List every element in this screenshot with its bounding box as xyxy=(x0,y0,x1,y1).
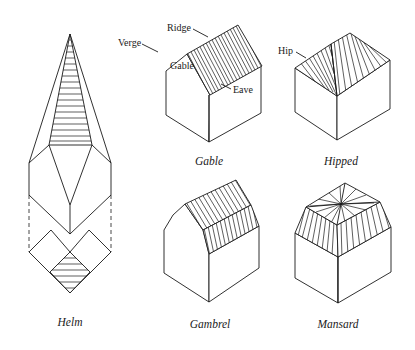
gable-diagram: Ridge Verge Gable Eave Gable xyxy=(118,22,262,167)
roof-types-figure: Helm Ridge xyxy=(0,0,415,350)
verge-label: Verge xyxy=(118,37,142,48)
ridge-label: Ridge xyxy=(167,22,191,33)
hip-label: Hip xyxy=(278,45,293,56)
gable-label: Gable xyxy=(170,60,194,71)
hipped-diagram: Hip Hipped xyxy=(278,30,392,168)
eave-label: Eave xyxy=(233,84,254,95)
gambrel-caption: Gambrel xyxy=(190,318,230,330)
mansard-caption: Mansard xyxy=(316,318,358,330)
hipped-caption: Hipped xyxy=(323,155,358,168)
helm-caption: Helm xyxy=(57,316,83,328)
helm-diagram: Helm xyxy=(29,34,111,328)
mansard-diagram: Mansard xyxy=(295,183,391,330)
gable-caption: Gable xyxy=(195,155,223,167)
gambrel-diagram: Gambrel xyxy=(164,178,259,330)
